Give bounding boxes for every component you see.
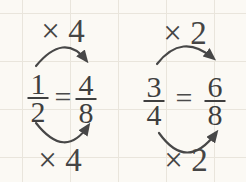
multiply-arrow-top-left-icon <box>36 47 86 66</box>
denominator: 4 <box>147 103 162 127</box>
multiplier-label-bottom-right: × 2 <box>164 144 207 177</box>
denominator: 8 <box>208 103 223 127</box>
fraction-six-eighths: 6 8 <box>205 75 226 127</box>
denominator: 8 <box>79 101 94 125</box>
fraction-one-half: 1 2 <box>28 72 49 124</box>
denominator: 2 <box>31 100 46 124</box>
numerator: 3 <box>147 75 162 99</box>
equals-sign: = <box>176 83 193 113</box>
fraction-four-eighths: 4 8 <box>76 73 97 125</box>
multiplier-label-top-left: × 4 <box>41 15 84 48</box>
multiplier-label-bottom-left: × 4 <box>38 144 81 177</box>
fraction-three-fourths: 3 4 <box>144 75 165 127</box>
equals-sign: = <box>55 82 72 112</box>
multiplier-label-top-right: × 2 <box>163 17 206 50</box>
equivalent-fractions-diagram: × 4 1 2 = 4 8 × 4 × 2 3 4 = 6 8 × 2 <box>0 0 246 182</box>
numerator: 6 <box>208 75 223 99</box>
numerator: 4 <box>79 73 94 97</box>
numerator: 1 <box>31 72 46 96</box>
